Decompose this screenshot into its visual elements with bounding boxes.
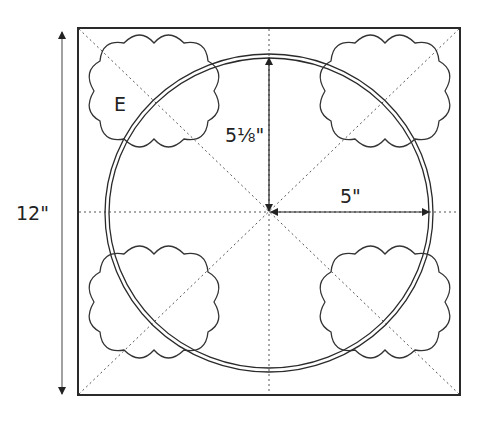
flower-template-top-right [320, 35, 450, 147]
flower-template-bottom-left [89, 246, 219, 358]
height-label: 12" [16, 202, 49, 224]
quilt-block-diagram: 12" 5⅛" 5" E [0, 0, 482, 423]
flower-template-bottom-right [320, 246, 450, 358]
horizontal-radius-label: 5" [340, 185, 361, 207]
flower-template-top-left [89, 35, 219, 147]
vertical-radius-label: 5⅛" [225, 124, 264, 146]
template-label-e: E [114, 93, 126, 115]
